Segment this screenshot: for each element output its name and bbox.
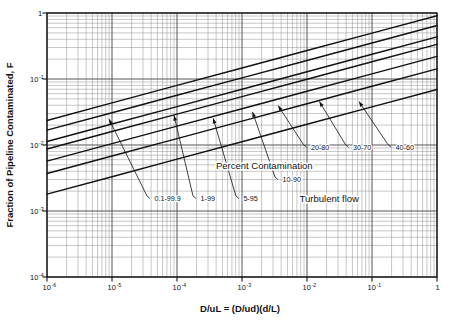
chart-root: 10-610-510-410-310-210-11 110-110-210-31… xyxy=(0,0,456,323)
annotation-turbulent-flow: Turbulent flow xyxy=(300,193,359,204)
x-tick-exponent: -6 xyxy=(52,282,57,288)
y-axis-title: Fraction of Pipeline Contaminated, F xyxy=(4,62,15,227)
curve-label-20-80: 20-80 xyxy=(311,143,329,152)
x-tick-mantissa: 10 xyxy=(43,283,51,292)
x-axis-title: D/uL = (D/ud)(d/L) xyxy=(200,303,280,314)
y-tick-mantissa: 10 xyxy=(30,273,38,282)
x-tick-mantissa: 1 xyxy=(436,283,440,292)
y-tick-exponent: -4 xyxy=(39,272,44,278)
y-tick-mantissa: 1 xyxy=(38,9,42,18)
y-tick-exponent: -2 xyxy=(39,140,44,146)
log-log-chart: 10-610-510-410-310-210-11 110-110-210-31… xyxy=(0,0,456,323)
y-tick-mantissa: 10 xyxy=(30,207,38,216)
x-tick-exponent: -3 xyxy=(247,282,252,288)
x-tick-mantissa: 10 xyxy=(238,283,246,292)
y-tick-exponent: -3 xyxy=(39,206,44,212)
curve-label-1-99: 1-99 xyxy=(201,194,215,203)
curve-label-30-70: 30-70 xyxy=(353,143,371,152)
y-tick-mantissa: 10 xyxy=(30,141,38,150)
y-tick-mantissa: 10 xyxy=(30,75,38,84)
x-tick-exponent: -1 xyxy=(377,282,382,288)
x-tick-mantissa: 10 xyxy=(368,283,376,292)
curve-label-0.1-99.9: 0.1-99.9 xyxy=(154,194,180,203)
x-tick-mantissa: 10 xyxy=(108,283,116,292)
curve-label-40-60: 40-60 xyxy=(396,143,414,152)
x-tick-exponent: -5 xyxy=(117,282,122,288)
y-tick-exponent: -1 xyxy=(39,74,44,80)
x-tick-label-6: 1 xyxy=(436,283,440,292)
x-tick-mantissa: 10 xyxy=(173,283,181,292)
curve-label-10-90: 10-90 xyxy=(283,175,301,184)
x-tick-exponent: -4 xyxy=(182,282,187,288)
annotation-percent-contamination: Percent Contamination xyxy=(216,160,313,171)
x-tick-mantissa: 10 xyxy=(303,283,311,292)
y-tick-label-0: 1 xyxy=(38,9,42,18)
x-tick-exponent: -2 xyxy=(312,282,317,288)
curve-label-5-95: 5-95 xyxy=(243,194,257,203)
